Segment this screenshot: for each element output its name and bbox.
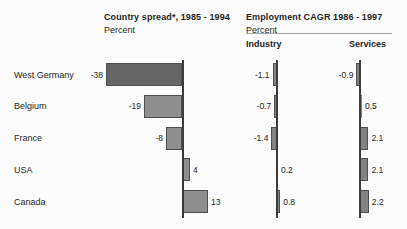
- industry-value-label: 0.8: [283, 190, 295, 213]
- country-spread-header: Country spread*, 1985 - 1994 Percent: [104, 12, 230, 35]
- spread-value-label: -38: [91, 63, 103, 86]
- country-spread-title: Country spread*, 1985 - 1994: [104, 12, 230, 22]
- dual-bar-chart-figure: Country spread*, 1985 - 1994 Percent Emp…: [0, 0, 407, 229]
- category-label: Belgium: [14, 95, 47, 118]
- services-value-label: 2.1: [371, 158, 383, 181]
- services-column-header: Services: [330, 39, 386, 49]
- services-value-label: 2.1: [371, 127, 383, 150]
- category-label: France: [14, 127, 42, 150]
- spread-value-label: 4: [193, 158, 198, 181]
- spread-bar: [106, 63, 182, 86]
- spread-bar: [166, 127, 182, 150]
- spread-value-label: 13: [211, 190, 220, 213]
- spread-value-label: -8: [155, 127, 163, 150]
- services-baseline-axis: [359, 60, 361, 218]
- services-bar: [360, 127, 368, 150]
- services-bar: [360, 190, 369, 213]
- header-divider-rule: [246, 33, 392, 34]
- industry-column-header: Industry: [246, 39, 282, 49]
- employment-cagr-title: Employment CAGR 1986 - 1997: [246, 12, 382, 22]
- industry-value-label: -1.1: [255, 63, 270, 86]
- services-value-label: 0.5: [365, 95, 377, 118]
- services-value-label: 2.2: [372, 190, 384, 213]
- spread-bar: [182, 190, 208, 213]
- services-value-label: -0.9: [339, 63, 354, 86]
- category-label: USA: [14, 158, 33, 181]
- industry-baseline-axis: [276, 60, 278, 218]
- services-bar: [360, 158, 368, 181]
- employment-cagr-header: Employment CAGR 1986 - 1997 Percent: [246, 12, 382, 35]
- industry-value-label: -1.4: [254, 127, 269, 150]
- category-label: Canada: [14, 190, 46, 213]
- category-label: West Germany: [14, 63, 74, 86]
- spread-value-label: -19: [129, 95, 141, 118]
- country-spread-units: Percent: [104, 25, 230, 35]
- country-spread-baseline-axis: [182, 60, 184, 218]
- industry-value-label: -0.7: [257, 95, 272, 118]
- industry-value-label: 0.2: [281, 158, 293, 181]
- spread-bar: [144, 95, 182, 118]
